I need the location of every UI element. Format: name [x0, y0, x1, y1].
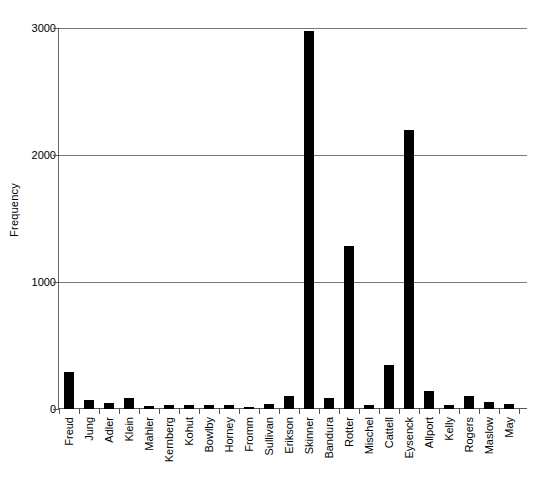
x-tick-label: Allport — [419, 414, 439, 480]
x-tick-label: May — [499, 414, 519, 480]
x-tick-label-text: Eysenck — [404, 417, 415, 459]
bar — [304, 31, 314, 409]
x-tick-label-text: Kelly — [444, 417, 455, 441]
bar — [504, 404, 514, 409]
bar-slot — [299, 28, 319, 409]
bar — [104, 403, 114, 409]
bar-slot — [519, 28, 539, 409]
x-tick-label: Maslow — [479, 414, 499, 480]
x-tick-label-text: Mischel — [364, 417, 375, 454]
bar — [484, 402, 494, 409]
bar — [284, 396, 294, 409]
x-tick-label-text: Bandura — [324, 417, 335, 459]
x-tick-label-text: Maslow — [484, 417, 495, 454]
y-tick-label: 1000 — [14, 277, 56, 288]
x-tick-label: Rotter — [339, 414, 359, 480]
bar-slot — [439, 28, 459, 409]
x-tick-label: Eysenck — [399, 414, 419, 480]
x-tick-label-text: Horney — [224, 417, 235, 452]
bar-slot — [179, 28, 199, 409]
x-tick-label: Mischel — [359, 414, 379, 480]
x-tick-label-text: Bowlby — [204, 417, 215, 452]
x-tick-label: Skinner — [299, 414, 319, 480]
bar-slot — [319, 28, 339, 409]
y-tick-label: 3000 — [14, 23, 56, 34]
bar-slot — [279, 28, 299, 409]
x-tick-label-text: Fromm — [244, 417, 255, 452]
bar — [424, 391, 434, 409]
x-tick-label: Jung — [79, 414, 99, 480]
x-tick-label-text: Allport — [424, 417, 435, 448]
x-tick-label: Fromm — [239, 414, 259, 480]
bar-slot — [159, 28, 179, 409]
bar-slot — [359, 28, 379, 409]
x-tick-label: Horney — [219, 414, 239, 480]
x-tick-label: Rogers — [459, 414, 479, 480]
bar — [204, 405, 214, 409]
x-tick-label: Kohut — [179, 414, 199, 480]
plot-area — [58, 28, 527, 409]
x-tick-label-text: May — [504, 417, 515, 438]
bar-slot — [79, 28, 99, 409]
x-tick-label: Freud — [59, 414, 79, 480]
bar-slot — [259, 28, 279, 409]
x-tick-label-text: Cattell — [384, 417, 395, 448]
bar — [264, 404, 274, 409]
bar — [404, 130, 414, 409]
bar — [364, 405, 374, 409]
bar-slot — [139, 28, 159, 409]
bar-slot — [119, 28, 139, 409]
bar-slot — [339, 28, 359, 409]
bar-slot — [459, 28, 479, 409]
bar-slot — [219, 28, 239, 409]
bar-slot — [199, 28, 219, 409]
x-axis-tick-labels: FreudJungAdlerKleinMahlerKernbergKohutBo… — [59, 414, 527, 483]
bar-slot — [419, 28, 439, 409]
y-tick-label: 0 — [14, 404, 56, 415]
bar — [444, 405, 454, 409]
x-tick-label: Sullivan — [259, 414, 279, 480]
x-tick-label-text: Rotter — [344, 417, 355, 447]
x-tick-label-text: Kernberg — [164, 417, 175, 462]
x-tick-label-text: Erikson — [284, 417, 295, 454]
bar — [244, 407, 254, 409]
bar — [124, 398, 134, 409]
x-tick-label-text: Mahler — [144, 417, 155, 451]
bar — [84, 400, 94, 409]
bar — [164, 405, 174, 409]
x-tick-label-text: Jung — [84, 417, 95, 441]
bar — [324, 398, 334, 409]
x-tick-label: Bandura — [319, 414, 339, 480]
x-tick-label-text: Kohut — [184, 417, 195, 446]
bar — [64, 372, 74, 409]
bar — [344, 246, 354, 409]
x-tick-label-text: Adler — [104, 417, 115, 443]
bar-slot — [379, 28, 399, 409]
bar — [184, 405, 194, 409]
x-tick-label: Klein — [119, 414, 139, 480]
bar-series — [59, 28, 527, 409]
x-tick-label: Adler — [99, 414, 119, 480]
x-tick-label: Kelly — [439, 414, 459, 480]
bar-slot — [479, 28, 499, 409]
x-tick-label-text: Rogers — [464, 417, 475, 452]
x-tick-label-text: Skinner — [304, 417, 315, 454]
x-tick-label-text: Freud — [64, 417, 75, 446]
bar-slot — [59, 28, 79, 409]
bar — [384, 365, 394, 409]
bar — [144, 406, 154, 409]
bar — [464, 396, 474, 409]
bar-slot — [499, 28, 519, 409]
bar-slot — [99, 28, 119, 409]
x-tick-label: Erikson — [279, 414, 299, 480]
bar-slot — [239, 28, 259, 409]
bar — [224, 405, 234, 409]
y-tick-label: 2000 — [14, 150, 56, 161]
bar-chart-figure: Frequency 0100020003000 FreudJungAdlerKl… — [0, 0, 547, 483]
bar-slot — [399, 28, 419, 409]
x-tick-label: Cattell — [379, 414, 399, 480]
x-tick-label: Kernberg — [159, 414, 179, 480]
y-axis-tick-labels: 0100020003000 — [12, 0, 56, 483]
x-tick-label: Mahler — [139, 414, 159, 480]
x-tick-label-text: Klein — [124, 417, 135, 441]
